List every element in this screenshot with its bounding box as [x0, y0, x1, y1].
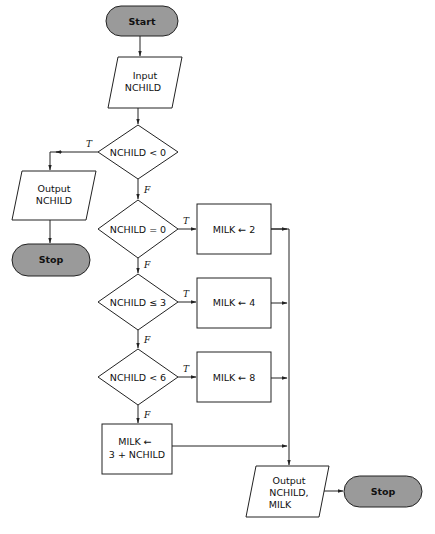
- input-line1: Input: [133, 70, 158, 81]
- assign-1-label: MILK ← 2: [213, 224, 256, 235]
- decision-4-label: NCHILD < 6: [110, 372, 166, 383]
- error-stop-label: Stop: [39, 254, 64, 265]
- assign-milk-2: MILK ← 2: [197, 204, 271, 254]
- d2-false-label: F: [143, 260, 151, 270]
- decision-3-label: NCHILD ≤ 3: [110, 297, 166, 308]
- d1-true-label: T: [86, 139, 93, 149]
- decision-nchild-le-3: NCHILD ≤ 3: [98, 274, 178, 330]
- assign-4-line1: MILK ←: [118, 436, 152, 447]
- final-output-line2: NCHILD,: [269, 487, 308, 498]
- stop-terminal-error: Stop: [12, 244, 90, 276]
- stop-terminal-final: Stop: [344, 476, 422, 507]
- start-label: Start: [128, 16, 155, 27]
- d4-false-label: F: [143, 410, 151, 420]
- input-line2: NCHILD: [125, 82, 161, 93]
- d4-true-label: T: [183, 364, 190, 374]
- d3-true-label: T: [183, 289, 190, 299]
- d3-false-label: F: [143, 335, 151, 345]
- final-output-line3: MILK: [269, 499, 292, 510]
- final-output-line1: Output: [273, 475, 306, 486]
- decision-nchild-lt-6: NCHILD < 6: [98, 349, 178, 405]
- decision-nchild-eq-0: NCHILD = 0: [98, 200, 178, 258]
- decision-nchild-lt-0: NCHILD < 0: [98, 125, 178, 179]
- assign-4-line2: 3 + NCHILD: [109, 449, 165, 460]
- assign-2-label: MILK ← 4: [213, 297, 256, 308]
- output-nchild-error: Output NCHILD: [12, 171, 96, 220]
- d1-false-label: F: [143, 185, 151, 195]
- d2-true-label: T: [183, 216, 190, 226]
- start-terminal: Start: [106, 6, 178, 36]
- final-stop-label: Stop: [371, 486, 396, 497]
- input-nchild: Input NCHILD: [108, 57, 182, 108]
- error-output-line2: NCHILD: [36, 195, 72, 206]
- flowchart-canvas: Start Input NCHILD NCHILD < 0 T Output N…: [0, 0, 435, 534]
- assign-milk-4: MILK ← 4: [197, 278, 271, 328]
- error-output-line1: Output: [38, 183, 71, 194]
- output-nchild-milk: Output NCHILD, MILK: [246, 466, 329, 517]
- decision-2-label: NCHILD = 0: [110, 224, 166, 235]
- assign-3-label: MILK ← 8: [213, 372, 256, 383]
- assign-milk-3-plus-nchild: MILK ← 3 + NCHILD: [102, 424, 172, 474]
- assign-milk-8: MILK ← 8: [197, 352, 271, 402]
- decision-1-label: NCHILD < 0: [110, 147, 166, 158]
